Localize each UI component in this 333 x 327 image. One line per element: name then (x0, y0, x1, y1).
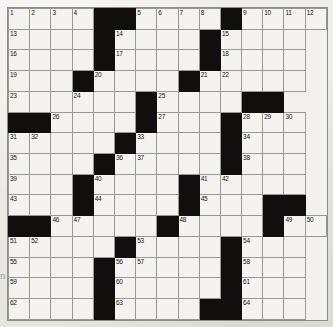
crossword-cell[interactable]: 40 (93, 174, 114, 195)
crossword-cell[interactable] (178, 154, 199, 175)
crossword-cell[interactable] (263, 71, 284, 92)
crossword-cell[interactable]: 42 (220, 174, 241, 195)
crossword-cell[interactable] (263, 257, 284, 278)
crossword-cell[interactable] (178, 236, 199, 257)
crossword-cell[interactable] (263, 50, 284, 71)
crossword-cell[interactable]: 37 (136, 154, 157, 175)
crossword-cell[interactable]: 25 (157, 91, 178, 112)
crossword-cell[interactable]: 18 (220, 50, 241, 71)
crossword-cell[interactable]: 56 (114, 257, 135, 278)
crossword-cell[interactable] (51, 29, 72, 50)
crossword-cell[interactable]: 43 (9, 195, 30, 216)
crossword-cell[interactable] (93, 112, 114, 133)
crossword-cell[interactable] (242, 29, 263, 50)
crossword-cell[interactable]: 21 (199, 71, 220, 92)
crossword-cell[interactable]: 4 (72, 9, 93, 30)
crossword-cell[interactable] (72, 112, 93, 133)
crossword-cell[interactable]: 2 (30, 9, 51, 30)
crossword-cell[interactable]: 9 (242, 9, 263, 30)
crossword-cell[interactable] (51, 257, 72, 278)
crossword-cell[interactable] (157, 299, 178, 320)
crossword-cell[interactable]: 29 (263, 112, 284, 133)
crossword-cell[interactable] (114, 71, 135, 92)
crossword-cell[interactable]: 1 (9, 9, 30, 30)
crossword-cell[interactable]: 27 (157, 112, 178, 133)
crossword-cell[interactable] (284, 71, 305, 92)
crossword-cell[interactable] (178, 50, 199, 71)
crossword-cell[interactable] (30, 195, 51, 216)
crossword-cell[interactable]: 10 (263, 9, 284, 30)
crossword-cell[interactable]: 17 (114, 50, 135, 71)
crossword-cell[interactable] (220, 195, 241, 216)
crossword-cell[interactable] (199, 216, 220, 237)
crossword-cell[interactable]: 20 (93, 71, 114, 92)
crossword-cell[interactable] (157, 71, 178, 92)
crossword-cell[interactable] (72, 257, 93, 278)
crossword-cell[interactable] (51, 133, 72, 154)
crossword-cell[interactable] (30, 71, 51, 92)
crossword-cell[interactable] (136, 29, 157, 50)
crossword-cell[interactable] (263, 133, 284, 154)
crossword-cell[interactable] (199, 133, 220, 154)
crossword-cell[interactable] (284, 154, 305, 175)
crossword-cell[interactable] (30, 278, 51, 299)
crossword-cell[interactable] (93, 236, 114, 257)
crossword-cell[interactable] (136, 174, 157, 195)
crossword-cell[interactable] (242, 71, 263, 92)
crossword-cell[interactable] (263, 236, 284, 257)
crossword-cell[interactable] (178, 299, 199, 320)
crossword-cell[interactable] (178, 278, 199, 299)
crossword-cell[interactable]: 16 (9, 50, 30, 71)
crossword-cell[interactable] (199, 91, 220, 112)
crossword-cell[interactable] (284, 299, 305, 320)
crossword-cell[interactable]: 12 (305, 9, 326, 30)
crossword-cell[interactable]: 54 (242, 236, 263, 257)
crossword-cell[interactable]: 36 (114, 154, 135, 175)
crossword-cell[interactable] (284, 174, 305, 195)
crossword-cell[interactable]: 26 (51, 112, 72, 133)
crossword-grid[interactable]: 1234567891011121314151617181920212223242… (8, 8, 327, 320)
crossword-cell[interactable] (242, 195, 263, 216)
crossword-cell[interactable]: 33 (136, 133, 157, 154)
crossword-cell[interactable] (114, 112, 135, 133)
crossword-cell[interactable]: 30 (284, 112, 305, 133)
crossword-cell[interactable]: 3 (51, 9, 72, 30)
crossword-cell[interactable] (157, 154, 178, 175)
crossword-cell[interactable]: 61 (242, 278, 263, 299)
crossword-cell[interactable]: 32 (30, 133, 51, 154)
crossword-cell[interactable]: 13 (9, 29, 30, 50)
crossword-cell[interactable] (284, 278, 305, 299)
crossword-cell[interactable] (30, 174, 51, 195)
crossword-cell[interactable]: 41 (199, 174, 220, 195)
crossword-cell[interactable] (51, 236, 72, 257)
crossword-cell[interactable]: 8 (199, 9, 220, 30)
crossword-cell[interactable] (30, 257, 51, 278)
crossword-cell[interactable] (114, 195, 135, 216)
crossword-cell[interactable]: 55 (9, 257, 30, 278)
crossword-cell[interactable]: 57 (136, 257, 157, 278)
crossword-cell[interactable] (178, 91, 199, 112)
crossword-cell[interactable] (220, 216, 241, 237)
crossword-cell[interactable] (72, 133, 93, 154)
crossword-cell[interactable]: 14 (114, 29, 135, 50)
crossword-cell[interactable] (51, 278, 72, 299)
crossword-cell[interactable] (114, 91, 135, 112)
crossword-cell[interactable] (136, 50, 157, 71)
crossword-cell[interactable] (72, 299, 93, 320)
crossword-cell[interactable]: 7 (178, 9, 199, 30)
crossword-cell[interactable] (51, 299, 72, 320)
crossword-cell[interactable]: 49 (284, 216, 305, 237)
crossword-cell[interactable]: 58 (242, 257, 263, 278)
crossword-cell[interactable] (157, 29, 178, 50)
crossword-cell[interactable]: 51 (9, 236, 30, 257)
crossword-cell[interactable] (242, 174, 263, 195)
crossword-cell[interactable] (51, 174, 72, 195)
crossword-cell[interactable]: 48 (178, 216, 199, 237)
crossword-cell[interactable]: 19 (9, 71, 30, 92)
crossword-cell[interactable] (263, 299, 284, 320)
crossword-cell[interactable]: 50 (305, 216, 326, 237)
crossword-cell[interactable]: 64 (242, 299, 263, 320)
crossword-cell[interactable]: 62 (9, 299, 30, 320)
crossword-cell[interactable]: 23 (9, 91, 30, 112)
crossword-cell[interactable] (30, 91, 51, 112)
